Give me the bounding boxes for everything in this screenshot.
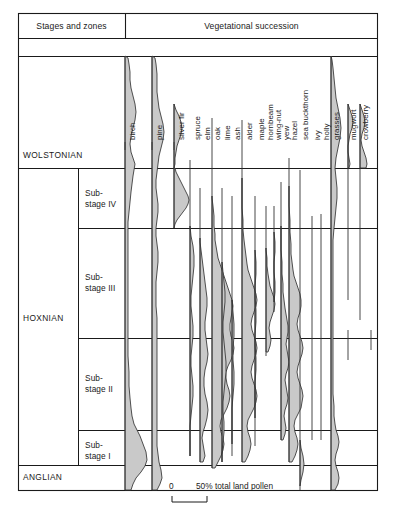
taxon-label-alder: alder: [245, 122, 254, 140]
taxon-label-silver-fir: silver fir: [177, 112, 186, 140]
taxon-label-hazel: hazel: [290, 121, 299, 140]
taxon-label-mugwort: mugwort: [349, 109, 358, 140]
taxon-label-crowberry: crowberry: [361, 105, 370, 140]
taxon-label-grasses: grasses: [332, 112, 341, 140]
taxon-label-birch: birch: [128, 123, 137, 140]
substage-sub2-line2: stage II: [85, 384, 113, 394]
substage-sub1-line2: stage I: [85, 451, 111, 461]
substage-sub2-line1: Sub-: [85, 373, 103, 383]
substage-label-sub2: Sub- stage II: [85, 373, 113, 394]
pollen-diagram: Stages and zones Vegetational succession…: [0, 0, 399, 507]
stage-label-anglian: ANGLIAN: [23, 472, 62, 482]
stage-column-rules: [79, 57, 126, 466]
curve-lime: [222, 262, 226, 462]
substage-label-sub1: Sub- stage I: [85, 440, 111, 461]
taxon-label-maple: maple: [257, 118, 266, 140]
curve-spruce: [190, 226, 194, 456]
curve-yew: [281, 226, 289, 440]
taxon-label-spruce: spruce: [193, 116, 202, 140]
curve-elm: [200, 238, 208, 462]
curve-sea-buckthorn: [300, 440, 304, 486]
taxon-label-pine: pine: [155, 125, 164, 140]
curve-hazel: [289, 186, 303, 462]
substage-sub3-line2: stage III: [85, 283, 115, 293]
scale-axis-label: 50% total land pollen: [196, 481, 273, 491]
taxon-label-holly: holly: [322, 124, 331, 140]
taxon-label-sea-buckthorn: sea buckthorn: [301, 90, 310, 140]
substage-sub1-line1: Sub-: [85, 440, 103, 450]
curve-pine: [152, 56, 164, 490]
taxon-label-elm: elm: [203, 127, 212, 140]
substage-sub4-line2: stage IV: [85, 199, 116, 209]
table-frame: [19, 14, 378, 491]
taxon-label-ash: ash: [233, 127, 242, 140]
substage-label-sub3: Sub- stage III: [85, 272, 115, 293]
scale-zero-label: 0: [169, 481, 174, 491]
curve-birch: [125, 56, 147, 490]
header-stages-and-zones: Stages and zones: [18, 21, 125, 31]
stage-label-hoxnian: HOXNIAN: [23, 313, 64, 323]
taxon-label-lime: lime: [223, 125, 232, 140]
scale-bar: [172, 496, 207, 502]
header-vegetational-succession: Vegetational succession: [126, 21, 377, 31]
taxon-label-oak: oak: [213, 127, 222, 140]
substage-label-sub4: Sub- stage IV: [85, 188, 116, 209]
taxon-tick-stems: [125, 142, 174, 150]
substage-sub3-line1: Sub-: [85, 272, 103, 282]
diagram-canvas: [0, 0, 399, 507]
substage-sub4-line1: Sub-: [85, 188, 103, 198]
curve-silver-fir: [174, 168, 189, 228]
taxon-label-ivy: ivy: [313, 130, 322, 140]
stage-label-wolstonian: WOLSTONIAN: [23, 150, 83, 160]
